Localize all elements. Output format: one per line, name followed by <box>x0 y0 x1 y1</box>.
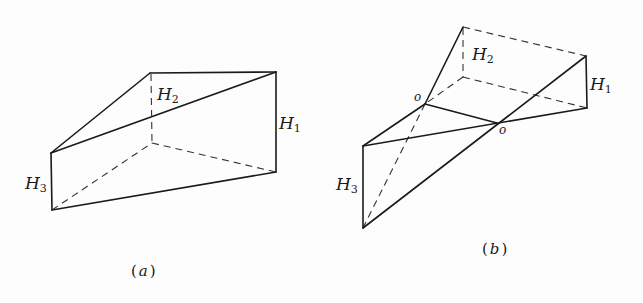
edge-b-diagonal-hidden <box>363 104 425 228</box>
edge-b-back-o-hidden <box>425 77 463 104</box>
edge-a-h3 <box>51 153 52 210</box>
label-a-h3: H3 <box>25 175 47 194</box>
label-b-h2: H2 <box>472 46 494 65</box>
diagram-lines <box>0 0 643 303</box>
edge-a-h2-hidden <box>151 74 152 143</box>
edge-a-bottom-front <box>52 172 276 210</box>
caption-a: (a) <box>131 264 158 279</box>
edge-b-o-o <box>425 104 497 123</box>
edge-a-bottom-left-hidden <box>52 143 152 210</box>
edge-b-left-to-right <box>363 108 587 146</box>
label-b-h3: H3 <box>336 176 358 195</box>
label-b-o-left: o <box>414 91 421 103</box>
label-b-h1: H1 <box>590 76 612 95</box>
edge-a-top-back <box>150 72 276 73</box>
edge-b-top-to-o <box>425 27 463 104</box>
label-a-h2: H2 <box>157 86 179 105</box>
edge-b-o-left <box>363 104 425 146</box>
edge-b-long-diagonal <box>363 56 586 228</box>
edge-b-h1 <box>586 56 587 108</box>
edge-a-bottom-back-hidden <box>152 143 276 172</box>
caption-b: (b) <box>482 242 509 257</box>
figure-canvas: H2 H1 H3 (a) H2 H1 H3 o o (b) <box>0 0 643 303</box>
label-b-o-right: o <box>499 124 506 136</box>
edge-a-top-left <box>51 73 150 153</box>
label-a-h1: H1 <box>279 115 301 134</box>
